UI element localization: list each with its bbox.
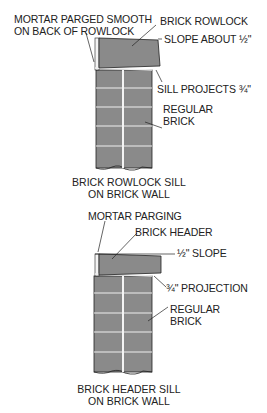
label-regular-brick-2: REGULAR BRICK xyxy=(170,304,220,327)
sill-diagrams xyxy=(0,0,267,413)
label-brick-header: BRICK HEADER xyxy=(135,227,213,239)
label-line: ON BACK OF ROWLOCK xyxy=(14,26,152,38)
label-line: REGULAR xyxy=(170,304,220,316)
label-line: BRICK xyxy=(170,316,220,328)
label-slope: SLOPE ABOUT ½" xyxy=(164,34,251,46)
label-sill-projects: SILL PROJECTS ¾" xyxy=(157,84,251,96)
rowlock-sill xyxy=(95,38,160,70)
label-projection: ¾" PROJECTION xyxy=(166,283,248,295)
label-line: REGULAR xyxy=(163,104,213,116)
header-wall xyxy=(94,276,152,374)
caption-line: BRICK ROWLOCK SILL xyxy=(64,176,194,188)
label-mortar-parged: MORTAR PARGED SMOOTH ON BACK OF ROWLOCK xyxy=(14,14,152,37)
rowlock-wall xyxy=(96,70,152,170)
label-brick-rowlock: BRICK ROWLOCK xyxy=(160,16,248,28)
label-mortar-parging: MORTAR PARGING xyxy=(88,211,182,223)
label-regular-brick: REGULAR BRICK xyxy=(163,104,213,127)
header-sill xyxy=(95,254,175,276)
caption-line: ON BRICK WALL xyxy=(64,188,194,200)
label-half-slope: ½" SLOPE xyxy=(177,248,227,260)
caption-line: ON BRICK WALL xyxy=(64,395,194,407)
caption-rowlock: BRICK ROWLOCK SILL ON BRICK WALL xyxy=(64,176,194,200)
label-line: BRICK xyxy=(163,116,213,128)
caption-header: BRICK HEADER SILL ON BRICK WALL xyxy=(64,383,194,407)
label-line: MORTAR PARGED SMOOTH xyxy=(14,14,152,26)
caption-line: BRICK HEADER SILL xyxy=(64,383,194,395)
